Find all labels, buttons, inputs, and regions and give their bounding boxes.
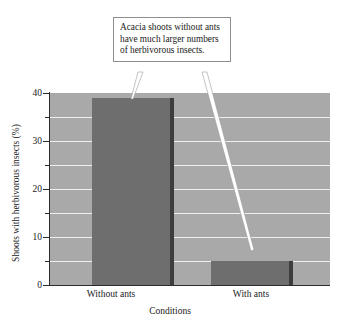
y-tick-label-20: 20 <box>33 184 43 194</box>
bar-chart-figure: 40 30 20 10 0 Shoots with herbivorous in… <box>0 0 340 329</box>
y-tick-major-40 <box>43 93 50 94</box>
bar-without-ants <box>92 98 170 285</box>
bar-with-ants <box>211 261 289 285</box>
y-tick-label-0: 0 <box>37 280 42 290</box>
bar-with-ants-shadow <box>289 261 293 285</box>
y-tick-major-30 <box>43 141 50 142</box>
y-axis-title: Shoots with herbivorous insects (%) <box>11 113 21 273</box>
y-tick-minor-15 <box>45 213 50 214</box>
bar-without-ants-shadow <box>170 98 174 285</box>
y-tick-minor-25 <box>45 165 50 166</box>
annotation-callout: Acacia shoots without ants have much lar… <box>113 17 231 62</box>
x-axis-line <box>49 285 330 286</box>
y-tick-major-0 <box>43 285 50 286</box>
plot-area <box>50 93 330 285</box>
y-tick-label-30: 30 <box>33 136 43 146</box>
y-tick-major-20 <box>43 189 50 190</box>
y-tick-label-40: 40 <box>33 88 43 98</box>
x-tick-label-with-ants: With ants <box>201 289 301 299</box>
y-tick-label-10: 10 <box>33 232 43 242</box>
x-axis-title: Conditions <box>0 306 340 316</box>
annotation-line-3: of herbivorous insects. <box>120 45 225 57</box>
y-tick-minor-35 <box>45 117 50 118</box>
y-tick-major-10 <box>43 237 50 238</box>
annotation-line-1: Acacia shoots without ants <box>120 22 225 34</box>
y-tick-minor-5 <box>45 261 50 262</box>
annotation-line-2: have much larger numbers <box>120 34 225 46</box>
x-tick-label-without-ants: Without ants <box>61 289 161 299</box>
